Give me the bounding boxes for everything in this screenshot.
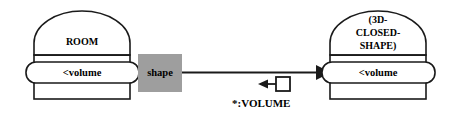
diagram-svg: ROOM <volume shape *:VOLUME — [0, 0, 456, 122]
node-closed-shape-title-line-2: CLOSED- — [356, 27, 400, 38]
diagram-canvas: ROOM <volume shape *:VOLUME — [0, 0, 456, 122]
role-marker-box-icon — [276, 77, 290, 91]
node-closed-shape-slot-label: <volume — [359, 67, 398, 78]
node-room[interactable]: ROOM <volume — [26, 11, 139, 99]
shape-box-label: shape — [147, 67, 173, 78]
role-marker-arrowhead-left-icon — [258, 80, 268, 89]
node-room-title: ROOM — [66, 36, 99, 47]
node-closed-shape[interactable]: (3D- CLOSED- SHAPE) <volume — [322, 11, 435, 99]
edge-label: *:VOLUME — [232, 97, 290, 109]
node-room-dome — [34, 11, 130, 55]
role-marker — [258, 77, 290, 91]
node-room-slot-label: <volume — [63, 67, 102, 78]
node-closed-shape-title-line-3: SHAPE) — [360, 40, 397, 52]
node-closed-shape-title-line-1: (3D- — [369, 14, 388, 26]
shape-box[interactable]: shape — [138, 54, 182, 92]
edge-shape-to-closed-shape — [182, 65, 331, 80]
